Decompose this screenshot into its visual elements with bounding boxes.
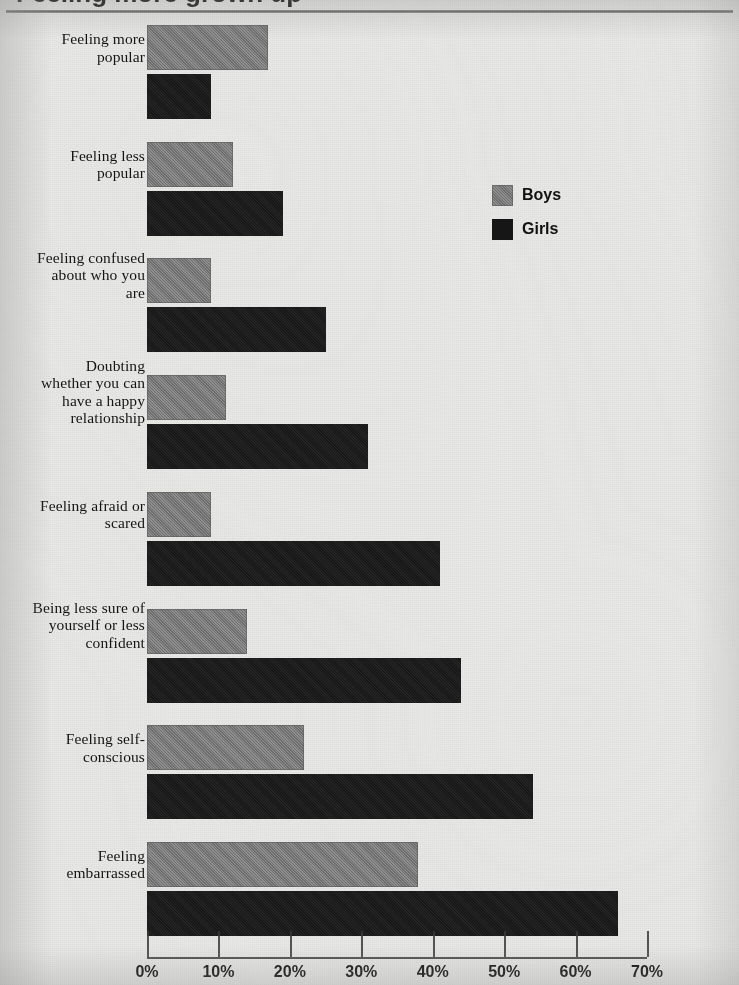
legend-swatch-boys-icon (492, 185, 513, 206)
x-axis-tick-label: 30% (331, 963, 391, 981)
x-axis-tick-label: 50% (474, 963, 534, 981)
x-axis-line (147, 957, 647, 959)
legend-entry[interactable]: Girls (492, 216, 561, 242)
x-axis-tick (647, 931, 649, 957)
x-axis: 0%10%20%30%40%50%60%70% (0, 0, 739, 985)
chart-legend: BoysGirls (492, 182, 561, 250)
x-axis-tick (433, 931, 435, 957)
x-axis-tick-label: 60% (546, 963, 606, 981)
x-axis-tick (504, 931, 506, 957)
legend-label: Boys (522, 186, 561, 204)
x-axis-tick-label: 70% (617, 963, 677, 981)
x-axis-tick (361, 931, 363, 957)
legend-entry[interactable]: Boys (492, 182, 561, 208)
x-axis-tick (290, 931, 292, 957)
x-axis-tick-label: 40% (403, 963, 463, 981)
legend-swatch-girls-icon (492, 219, 513, 240)
x-axis-tick-label: 0% (117, 963, 177, 981)
x-axis-tick-label: 10% (188, 963, 248, 981)
x-axis-tick-label: 20% (260, 963, 320, 981)
legend-label: Girls (522, 220, 558, 238)
x-axis-tick (147, 931, 149, 957)
x-axis-tick (576, 931, 578, 957)
x-axis-tick (218, 931, 220, 957)
